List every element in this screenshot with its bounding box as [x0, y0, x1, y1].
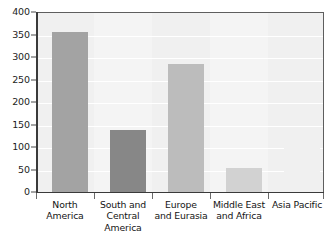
y-tick-label-100: 300	[0, 52, 30, 62]
bar-asia-pacific	[284, 147, 320, 192]
x-axis-line	[36, 192, 324, 194]
bar-chart: 400 350 300 250 200 150 100 50 0	[0, 0, 331, 246]
x-label-line: Asia Pacific	[268, 199, 326, 210]
y-tick-label-200: 200	[0, 97, 30, 107]
x-label-north-america: North America	[36, 199, 94, 222]
x-label-middle-east-and-africa: Middle East and Africa	[210, 199, 268, 222]
y-tick-label-250: 150	[0, 120, 30, 130]
y-tick-label-300: 100	[0, 142, 30, 152]
bar-middle-east-and-africa	[226, 168, 262, 192]
y-tick-label-400: 0	[0, 187, 30, 197]
y-tick-label-350: 50	[0, 165, 30, 175]
x-label-line: and Africa	[210, 210, 268, 221]
y-tick-label-0: 400	[0, 7, 30, 17]
x-label-line: North	[36, 199, 94, 210]
y-tick-label-50: 350	[0, 30, 30, 40]
x-label-line: Middle East	[210, 199, 268, 210]
x-label-line: and Eurasia	[152, 210, 210, 221]
x-label-line: America	[36, 210, 94, 221]
plot-area	[36, 12, 324, 192]
y-axis-tick-labels: 400 350 300 250 200 150 100 50 0	[0, 0, 30, 200]
y-axis-line	[36, 12, 38, 193]
x-label-line: America	[94, 222, 152, 233]
x-label-line: South and	[94, 199, 152, 210]
y-tick-label-150: 250	[0, 75, 30, 85]
x-label-south-and-central-america: South and Central America	[94, 199, 152, 233]
bar-north-america	[52, 32, 88, 192]
x-axis-category-labels: North America South and Central America …	[36, 199, 324, 246]
x-label-europe-and-eurasia: Europe and Eurasia	[152, 199, 210, 222]
bar-south-and-central-america	[110, 130, 146, 192]
x-label-asia-pacific: Asia Pacific	[268, 199, 326, 210]
bar-europe-and-eurasia	[168, 64, 204, 192]
x-label-line: Central	[94, 210, 152, 221]
x-label-line: Europe	[152, 199, 210, 210]
